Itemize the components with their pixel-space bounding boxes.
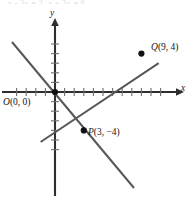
point-letter-O: O xyxy=(3,97,10,107)
point-label-Q: Q(9, 4) xyxy=(151,43,178,53)
point-coords-Q: (9, 4) xyxy=(158,42,179,52)
y-axis-label: y xyxy=(50,9,54,19)
point-label-O: O(0, 0) xyxy=(3,98,30,108)
x-axis-label: x xyxy=(181,84,185,94)
y-axis-arrow-icon xyxy=(51,18,59,26)
point-dot-P xyxy=(81,127,87,133)
point-letter-Q: Q xyxy=(151,42,158,52)
point-dot-O xyxy=(52,89,58,95)
point-label-P: P(3, −4) xyxy=(88,128,120,138)
point-coords-O: (0, 0) xyxy=(10,97,31,107)
y-axis-group xyxy=(51,18,59,196)
coordinate-plane-figure: x - 2y = 2, x + 2y = 0 xyxy=(0,0,194,200)
series-line-OP xyxy=(12,42,134,188)
point-coords-P: (3, −4) xyxy=(94,127,120,137)
point-dot-Q xyxy=(138,51,144,57)
